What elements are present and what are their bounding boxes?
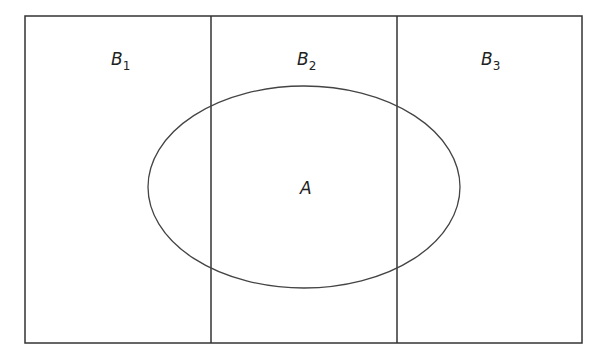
partition-diagram: B1 B2 B3 A <box>0 0 608 363</box>
partition-b2-label: B2 <box>297 49 316 73</box>
event-a-label: A <box>299 178 312 198</box>
partition-b3-label: B3 <box>481 49 500 73</box>
partition-b1-label: B1 <box>111 49 130 73</box>
